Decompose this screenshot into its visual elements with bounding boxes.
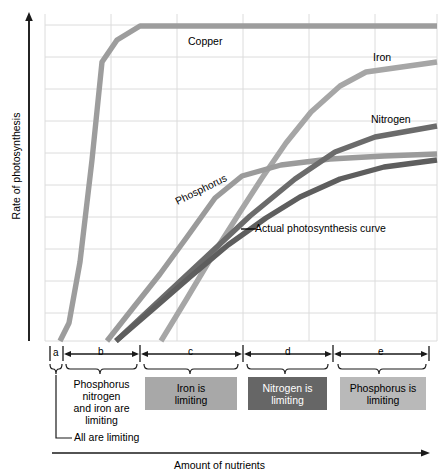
region-braces xyxy=(50,364,426,374)
bracket-letter-e: e xyxy=(378,346,384,358)
x-axis-label: Amount of nutrients xyxy=(0,459,439,471)
region-box-label-nitrogen-line1: Nitrogen is xyxy=(262,382,312,394)
chart-figure: Rate of photosynthesis Copper Iron Nitro… xyxy=(0,0,439,476)
region-box-label-iron: Iron is limiting xyxy=(145,377,237,410)
region-caption-b: Phosphorus nitrogen and iron are limitin… xyxy=(64,378,139,426)
region-caption-a: All are limiting xyxy=(74,431,139,443)
y-axis xyxy=(25,12,33,341)
series-label-nitrogen: Nitrogen xyxy=(371,113,411,125)
region-caption-b-line4: limiting xyxy=(64,414,139,426)
series-actual-photosynthesis xyxy=(116,160,437,341)
bracket-letter-d: d xyxy=(285,346,291,358)
y-axis-label: Rate of photosynthesis xyxy=(10,106,22,226)
region-caption-b-line3: and iron are xyxy=(64,402,139,414)
region-box-label-phosphorus-line1: Phosphorus is xyxy=(350,382,417,394)
series-label-actual-photosynthesis: Actual photosynthesis curve xyxy=(255,222,386,234)
region-box-label-iron-line2: limiting xyxy=(175,394,208,406)
bracket-letter-a: a xyxy=(53,347,59,359)
series-label-copper: Copper xyxy=(188,35,222,47)
region-ruler xyxy=(50,345,429,362)
region-box-label-nitrogen-line2: limiting xyxy=(271,394,304,406)
region-box-label-iron-line1: Iron is xyxy=(177,382,206,394)
region-caption-b-line1: Phosphorus xyxy=(64,378,139,390)
bracket-letter-b: b xyxy=(98,346,104,358)
bracket-letter-c: c xyxy=(188,346,193,358)
region-caption-b-line2: nitrogen xyxy=(64,390,139,402)
region-box-label-nitrogen: Nitrogen is limiting xyxy=(248,377,327,410)
region-box-label-phosphorus: Phosphorus is limiting xyxy=(340,377,426,410)
region-box-label-phosphorus-line2: limiting xyxy=(367,394,400,406)
x-axis xyxy=(52,449,430,456)
series-label-iron: Iron xyxy=(373,51,391,63)
series-iron xyxy=(161,62,437,341)
series-copper xyxy=(60,26,437,341)
